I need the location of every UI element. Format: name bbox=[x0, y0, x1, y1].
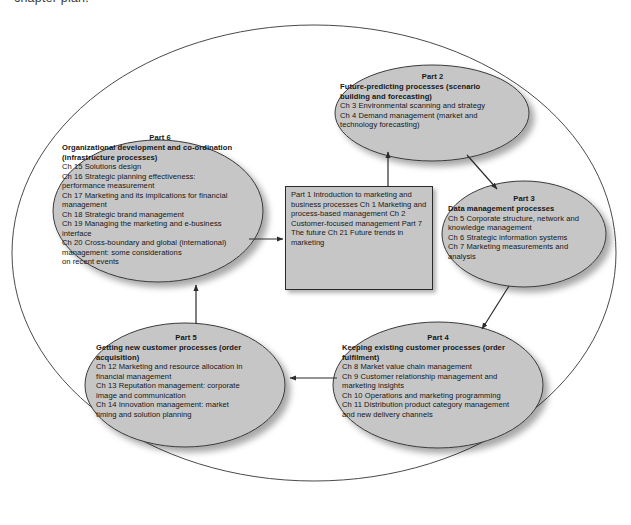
center-part1-chapter-line: management bbox=[343, 209, 387, 218]
part6-heading-line: (infrastructure processes) bbox=[62, 153, 258, 163]
part5-chapter-line: timing and solution planning bbox=[96, 410, 276, 420]
part3-label: Part 3 bbox=[448, 194, 600, 204]
part6-chapter-line: on recent events bbox=[62, 257, 258, 267]
center-part1-chapter-line: management bbox=[355, 219, 399, 228]
part6-chapter-line: Ch 19 Managing the marketing and e-busin… bbox=[62, 219, 258, 229]
part3-chapter-line: Ch 7 Marketing measurements and bbox=[448, 242, 600, 252]
part6-chapter-line: Ch 15 Solutions design bbox=[62, 162, 258, 172]
part3-heading-line: Data management processes bbox=[448, 204, 600, 214]
part6-label: Part 6 bbox=[62, 133, 258, 143]
part3-chapter-line: Ch 5 Corporate structure, network and bbox=[448, 214, 600, 224]
part3-chapter-line: analysis bbox=[448, 252, 600, 262]
part6-chapter-line: performance measurement bbox=[62, 181, 258, 191]
part6-heading-line: Organizational development and co-ordina… bbox=[62, 143, 258, 153]
part4-chapter-line: Ch 8 Market value chain management bbox=[342, 362, 534, 372]
part3-chapter-line: knowledge management bbox=[448, 223, 600, 233]
part5-chapter-line: image and communication bbox=[96, 391, 276, 401]
node-text-part6: Part 6 Organizational development and co… bbox=[62, 133, 258, 267]
part6-chapter-line: Ch 16 Strategic planning effectiveness: bbox=[62, 172, 258, 182]
node-text-part5: Part 5 Getting new customer processes (o… bbox=[96, 333, 276, 419]
part6-chapter-line: Ch 20 Cross-boundary and global (interna… bbox=[62, 238, 258, 248]
part6-chapter-line: Ch 17 Marketing and its implications for… bbox=[62, 191, 258, 201]
center-part1-heading-line1: Introduction to marketing and bbox=[313, 190, 411, 199]
part5-label: Part 5 bbox=[96, 333, 276, 343]
center-part1-label: Part 1 bbox=[291, 190, 311, 199]
center-part1-heading-line2: business processes bbox=[291, 200, 358, 209]
node-text-part2: Part 2 Future-predicting processes (scen… bbox=[340, 72, 525, 130]
part4-heading-line: Keeping existing customer processes (ord… bbox=[342, 343, 534, 353]
part5-chapter-line: financial management bbox=[96, 372, 276, 382]
center-part7-label: Part 7 bbox=[402, 219, 422, 228]
diagram-page: chapter plan. Part 1 bbox=[0, 0, 631, 525]
part5-heading-line: acquisition) bbox=[96, 353, 276, 363]
part5-chapter-line: Ch 13 Reputation management: corporate bbox=[96, 381, 276, 391]
part2-chapter-line: technology forecasting) bbox=[340, 120, 525, 130]
node-text-part4: Part 4 Keeping existing customer process… bbox=[342, 333, 534, 419]
part5-heading-line: Getting new customer processes (order bbox=[96, 343, 276, 353]
part4-chapter-line: marketing insights bbox=[342, 381, 534, 391]
part5-chapter-line: Ch 14 Innovation management: market bbox=[96, 400, 276, 410]
center-part7-heading: The future bbox=[291, 228, 326, 237]
node-text-part3: Part 3 Data management processes Ch 5 Co… bbox=[448, 194, 600, 261]
part4-label: Part 4 bbox=[342, 333, 534, 343]
part2-heading-line: Future-predicting processes (scenario bbox=[340, 82, 525, 92]
part4-chapter-line: Ch 10 Operations and marketing programmi… bbox=[342, 391, 534, 401]
part6-chapter-line: management bbox=[62, 200, 258, 210]
part6-chapter-line: interface bbox=[62, 229, 258, 239]
part2-chapter-line: Ch 4 Demand management (market and bbox=[340, 111, 525, 121]
part2-heading-line: building and forecasting) bbox=[340, 92, 525, 102]
part2-chapter-line: Ch 3 Environmental scanning and strategy bbox=[340, 101, 525, 111]
part4-heading-line: fulfilment) bbox=[342, 353, 534, 363]
arrow-part3-to-part4 bbox=[482, 286, 509, 329]
part2-label: Part 2 bbox=[340, 72, 525, 82]
part6-chapter-line: management: some considerations bbox=[62, 248, 258, 258]
part4-chapter-line: Ch 11 Distribution product category mana… bbox=[342, 400, 534, 410]
arrow-part2-to-part3 bbox=[467, 155, 497, 189]
part4-chapter-line: and new delivery channels bbox=[342, 410, 534, 420]
part6-chapter-line: Ch 18 Strategic brand management bbox=[62, 210, 258, 220]
center-box-text: Part 1 Introduction to marketing and bus… bbox=[291, 190, 431, 248]
part4-chapter-line: Ch 9 Customer relationship management an… bbox=[342, 372, 534, 382]
part3-chapter-line: Ch 6 Strategic information systems bbox=[448, 233, 600, 243]
part5-chapter-line: Ch 12 Marketing and resource allocation … bbox=[96, 362, 276, 372]
